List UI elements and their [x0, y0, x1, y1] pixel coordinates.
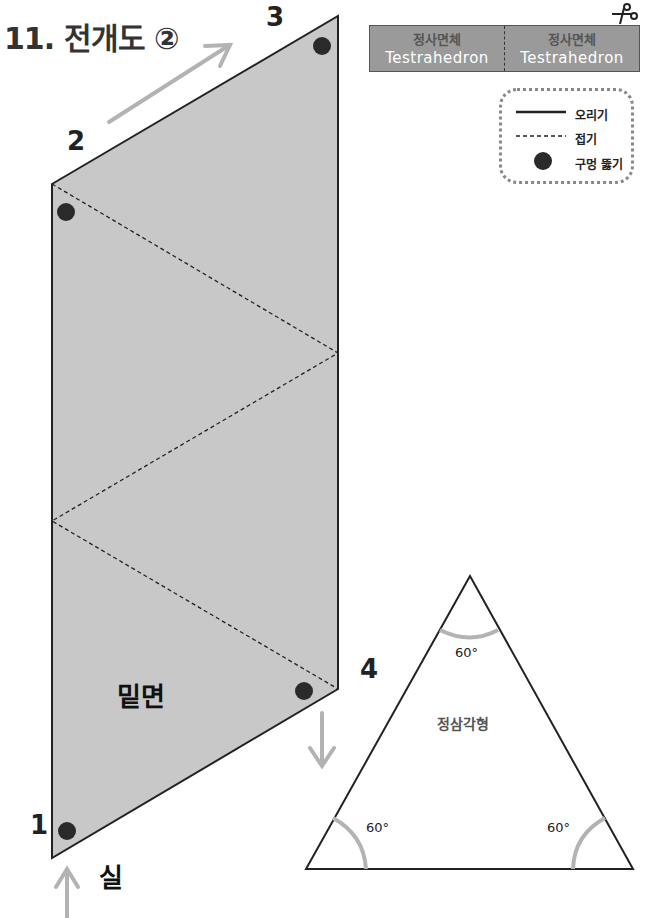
legend-box: 오리기 접기 구멍 뚫기 [499, 88, 634, 184]
thread-label: 실 [99, 857, 123, 894]
legend-hole-label: 구멍 뚫기 [575, 155, 623, 172]
vertex-label-1: 1 [30, 810, 48, 840]
tetrahedron-label-box: 정사면체 Testrahedron 정사면체 Testrahedron [369, 25, 640, 72]
vertex-label-4: 4 [360, 654, 378, 684]
angle-label-top: 60° [455, 645, 478, 660]
hole-dot-4 [295, 682, 313, 700]
label-english: Testrahedron [520, 49, 624, 67]
arrow-up-icon [56, 869, 78, 918]
label-english: Testrahedron [385, 49, 489, 67]
hole-dot-1 [58, 822, 76, 840]
vertex-label-2: 2 [67, 126, 85, 156]
label-cell-1: 정사면체 Testrahedron [370, 26, 504, 71]
angle-label-right: 60° [547, 820, 570, 835]
hole-dot-2 [57, 203, 75, 221]
base-face-label: 밑면 [117, 676, 165, 713]
page-title: 11. 전개도 ② [4, 14, 178, 58]
label-cell-2: 정사면체 Testrahedron [504, 26, 639, 71]
arrow-down-icon [310, 713, 334, 766]
scissors-icon [612, 4, 637, 24]
vertex-label-3: 3 [266, 2, 284, 32]
legend-cut-label: 오리기 [575, 106, 608, 123]
label-korean: 정사면체 [413, 31, 461, 49]
hole-dot-3 [313, 37, 331, 55]
angle-label-left: 60° [366, 820, 389, 835]
triangle-label: 정삼각형 [437, 713, 489, 733]
legend-fold-label: 접기 [575, 130, 597, 147]
label-korean: 정사면체 [548, 31, 596, 49]
